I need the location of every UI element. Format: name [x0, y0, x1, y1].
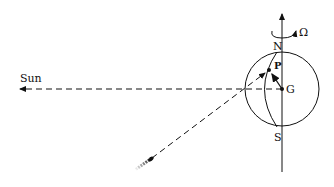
earth-sun-diagram — [0, 0, 334, 187]
point-p-label: P — [274, 61, 282, 71]
incoming-trajectory-line — [152, 73, 265, 158]
rotation-arrow-icon — [272, 31, 296, 38]
center-g-label: G — [286, 84, 295, 95]
point-p-dot — [267, 68, 271, 72]
north-label: N — [273, 41, 283, 52]
omega-label: Ω — [299, 27, 308, 38]
sun-label: Sun — [20, 73, 42, 84]
position-vector — [272, 74, 282, 89]
point-g-dot — [280, 87, 284, 91]
south-label: S — [274, 132, 282, 143]
